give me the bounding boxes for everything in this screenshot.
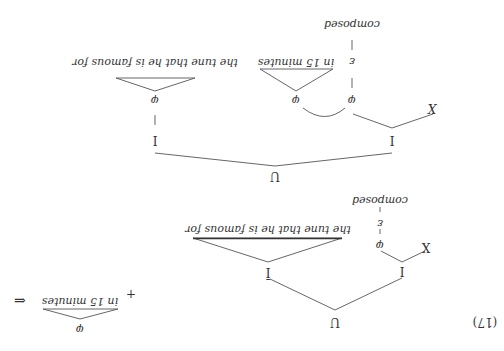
- bottom-epsilon-node: ε: [377, 217, 383, 230]
- top-epsilon-node: ε: [349, 55, 355, 68]
- top-x-node: X: [427, 101, 437, 115]
- bottom-x-node: X: [421, 240, 430, 254]
- double-arrow-icon: ⇐: [14, 293, 26, 309]
- plus-sign: +: [126, 287, 136, 301]
- bottom-tree: U I X φ ε composed Ī the tune that he is…: [184, 194, 430, 329]
- top-right-phi-node: φ: [151, 94, 159, 107]
- top-composed-word: composed: [324, 18, 380, 31]
- example-number: (17): [473, 315, 498, 329]
- top-tree: U I φ the tune that he is famous for I X…: [71, 18, 437, 183]
- top-right-i-node: I: [152, 133, 157, 147]
- top-attached-phi-node: φ: [292, 94, 300, 107]
- top-phrase-tune: the tune that he is famous for: [71, 56, 237, 69]
- attachment-arc: [303, 108, 345, 117]
- top-phrase-minutes: in 15 minutes: [258, 56, 335, 69]
- top-root-node: U: [270, 169, 280, 183]
- bottom-composed-word: composed: [352, 194, 408, 207]
- separate-phrase: φ in 15 minutes: [42, 295, 119, 336]
- bottom-i-node: I: [399, 264, 404, 278]
- separate-phi-node: φ: [76, 323, 84, 336]
- bottom-ibar-node: Ī: [265, 265, 270, 280]
- top-left-i-node: I: [389, 133, 394, 147]
- bottom-phrase-tune: the tune that he is famous for: [184, 223, 350, 236]
- separate-phrase-minutes: in 15 minutes: [42, 295, 119, 308]
- syntax-tree-diagram: U I φ the tune that he is famous for I X…: [0, 0, 504, 351]
- top-phi-node: φ: [348, 94, 356, 107]
- bottom-root-node: U: [330, 315, 340, 329]
- bottom-phi-node: φ: [376, 239, 384, 252]
